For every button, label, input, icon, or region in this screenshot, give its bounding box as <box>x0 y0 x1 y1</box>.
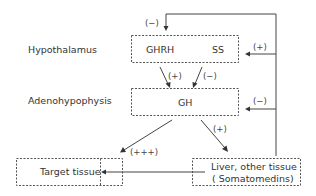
hypothalamus-label: Hypothalamus <box>28 44 97 55</box>
ss-to-gh-arrowhead <box>193 82 198 88</box>
gh-to-target-arrow <box>124 120 172 150</box>
liver-label-line1: Liver, other tissue <box>211 161 297 172</box>
gh-to-liver-sign: (+) <box>213 124 227 134</box>
adenohypophysis-label: Adenohypophysis <box>28 95 112 106</box>
ss-label: SS <box>212 44 224 55</box>
pituitary-feedback-sign: (−) <box>253 96 267 106</box>
hypothalamus-feedback-sign: (+) <box>253 42 267 52</box>
hypothalamus-feedback-arrowhead <box>245 52 250 57</box>
ghrh-to-gh-sign: (+) <box>168 71 182 81</box>
liver-to-target-arrowhead <box>101 170 106 175</box>
liver-label-line2: ( Somatomedins) <box>212 173 294 184</box>
target-tissue-label: Target tissue <box>39 166 101 177</box>
gh-to-target-sign: (+++) <box>130 147 158 157</box>
gh-label: GH <box>178 97 193 108</box>
ss-to-gh-sign: (−) <box>203 71 217 81</box>
ghrh-to-gh-arrowhead <box>166 82 171 88</box>
pituitary-feedback-arrowhead <box>245 107 250 112</box>
ghrh-label: GHRH <box>146 44 174 55</box>
gh-regulation-diagram: Hypothalamus Adenohypophysis GHRH SS GH … <box>0 0 316 196</box>
top-feedback-sign: (−) <box>145 18 159 28</box>
ss-to-gh-arrow <box>195 67 202 84</box>
ghrh-to-gh-arrow <box>160 67 168 84</box>
gh-to-liver-arrowhead <box>222 146 228 153</box>
top-feedback-arrowhead <box>164 26 169 31</box>
